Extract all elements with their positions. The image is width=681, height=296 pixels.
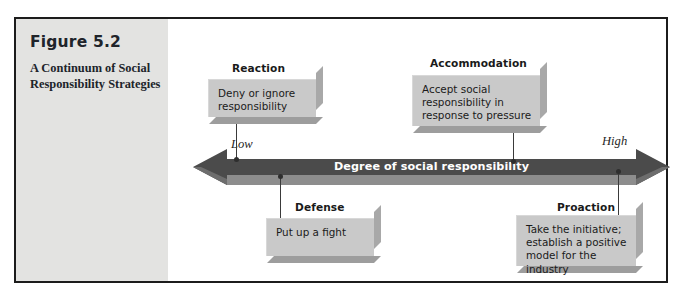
strategy-title-reaction: Reaction	[232, 62, 285, 74]
arrow-bevel	[227, 175, 636, 185]
continuum-high-label: High	[602, 134, 627, 149]
strategy-text-reaction: Deny or ignore responsibility	[209, 80, 316, 113]
connector-line-defense	[280, 177, 281, 223]
figure-root: Figure 5.2 A Continuum of Social Respons…	[0, 0, 681, 296]
continuum-arrow-shape	[193, 149, 670, 191]
strategy-text-accommodation: Accept social responsibility in response…	[413, 76, 540, 123]
connector-dot-defense	[278, 174, 283, 179]
figure-number: Figure 5.2	[30, 33, 121, 51]
strategy-box-defense: Put up a fight	[266, 218, 374, 256]
connector-dot-reaction	[234, 157, 239, 162]
strategy-title-proaction: Proaction	[557, 201, 615, 213]
figure-frame: Figure 5.2 A Continuum of Social Respons…	[14, 17, 668, 283]
connector-dot-proaction	[616, 169, 621, 174]
strategy-text-defense: Put up a fight	[267, 219, 374, 239]
figure-caption: A Continuum of Social Responsibility Str…	[30, 61, 162, 92]
strategy-text-proaction: Take the initiative; establish a positiv…	[517, 216, 636, 276]
caption-panel: Figure 5.2 A Continuum of Social Respons…	[16, 19, 168, 281]
connector-line-proaction	[618, 171, 619, 221]
strategy-box-accommodation: Accept social responsibility in response…	[412, 75, 540, 126]
strategy-title-defense: Defense	[295, 201, 345, 213]
connector-dot-accommodation	[511, 159, 516, 164]
strategy-box-reaction: Deny or ignore responsibility	[208, 79, 316, 117]
strategy-box-proaction: Take the initiative; establish a positiv…	[516, 215, 636, 266]
strategy-title-accommodation: Accommodation	[430, 57, 527, 69]
continuum-arrow: Degree of social responsibility	[193, 149, 670, 191]
